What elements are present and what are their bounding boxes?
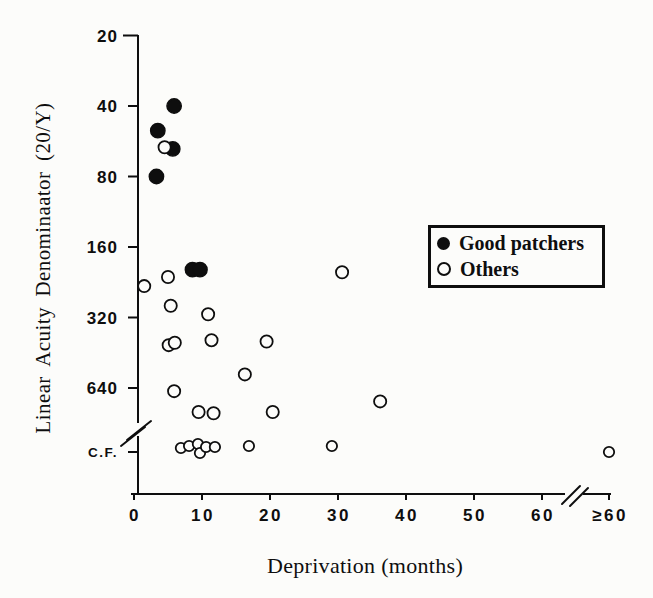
y-tick-label-80: 80 (97, 168, 118, 187)
y-tick-label-640: 640 (87, 379, 118, 398)
open-circle-icon (437, 262, 451, 276)
x-axis-title: Deprivation (months) (215, 553, 515, 579)
others-point (327, 441, 337, 451)
y-tick-label-160: 160 (87, 238, 118, 257)
scatter-plot: 204080160320640C.F. 0102030405060≥60 (0, 0, 653, 598)
good-patchers-point (167, 99, 181, 113)
others-point (205, 334, 217, 346)
y-tick-label-C.F.: C.F. (88, 445, 118, 460)
others-point (193, 406, 205, 418)
others-point (207, 407, 219, 419)
others-point (138, 280, 150, 292)
others-point (169, 337, 181, 349)
others-point (239, 368, 251, 380)
filled-circle-icon (437, 237, 450, 250)
others-point (168, 385, 180, 397)
others-point (261, 335, 273, 347)
others-point (336, 266, 348, 278)
others-point (202, 308, 214, 320)
legend-item-others: Others (437, 258, 596, 281)
good-patchers-point (193, 262, 207, 276)
y-axis-break-icon (121, 427, 145, 446)
x-tick-label-≥60: ≥60 (592, 506, 628, 525)
y-tick-label-320: 320 (87, 309, 118, 328)
others-point (162, 271, 174, 283)
legend-label: Others (460, 258, 519, 281)
x-tick-label-10: 10 (191, 506, 215, 525)
others-point (159, 141, 171, 153)
good-patchers-point (149, 169, 163, 183)
legend-label: Good patchers (459, 232, 584, 255)
good-patchers-point (151, 124, 165, 138)
figure: 204080160320640C.F. 0102030405060≥60 Lin… (0, 0, 653, 598)
x-tick-label-30: 30 (327, 506, 351, 525)
x-tick-label-60: 60 (531, 506, 555, 525)
others-point (244, 441, 254, 451)
x-axis-break-icon (570, 488, 588, 506)
legend: Good patchers Others (428, 225, 605, 288)
x-axis-ticks: 0102030405060≥60 (129, 494, 628, 525)
y-axis-title: Linear Acuity Denominaator (20/Y) (31, 68, 59, 468)
legend-item-good-patchers: Good patchers (437, 232, 596, 255)
y-tick-label-40: 40 (97, 97, 118, 116)
y-axis-ticks: 204080160320640C.F. (87, 27, 138, 461)
x-tick-label-40: 40 (395, 506, 419, 525)
others-point (604, 447, 614, 457)
others-point (165, 300, 177, 312)
others-point (210, 442, 220, 452)
others-point (374, 395, 386, 407)
others-point (267, 406, 279, 418)
x-tick-label-0: 0 (129, 506, 141, 525)
x-tick-label-50: 50 (463, 506, 487, 525)
y-tick-label-20: 20 (97, 27, 118, 46)
x-tick-label-20: 20 (259, 506, 283, 525)
